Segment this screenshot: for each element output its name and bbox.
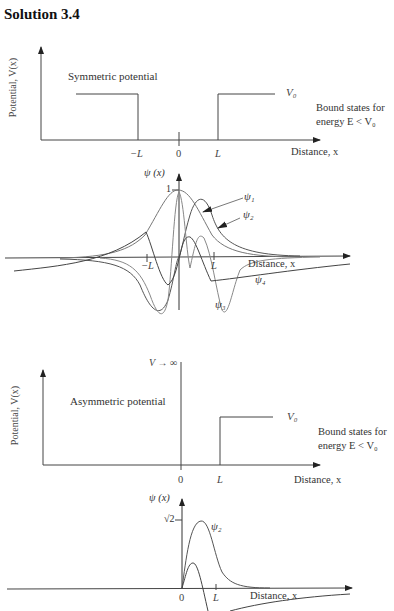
wall-label: V → ∞ (149, 357, 177, 368)
psi1-label: ψ₁ (244, 190, 255, 202)
asym-psi-ylabel: ψ (x) (149, 492, 170, 503)
asymmetric-caption: Asymmetric potential (70, 395, 166, 407)
psi-ylabel: ψ (x) (144, 167, 165, 178)
psi-tick-neg-L: −L (141, 260, 154, 271)
asym-psi-tick-L: L (213, 592, 219, 603)
symmetric-v0-label: V₀ (286, 86, 297, 98)
tick-neg-L: −L (130, 148, 143, 159)
asymmetric-ylabel: Potential, V(x) (9, 366, 20, 466)
asym-psi-tick: √2 (164, 513, 175, 524)
psi4-label: ψ₄ (255, 273, 266, 285)
labels-layer: Potential, V(x) Symmetric potential V₀ B… (0, 0, 394, 611)
asym-psi2-label: ψ₂ (211, 520, 222, 532)
tick-zero: 0 (176, 148, 181, 159)
symmetric-xlabel: Distance, x (291, 146, 338, 157)
psi-tick-one: 1 (166, 183, 171, 194)
psi3-label: ψ₃ (215, 298, 226, 310)
asymmetric-xlabel: Distance, x (294, 474, 341, 485)
psi2-label: ψ₂ (243, 208, 254, 220)
asymmetric-bound-note: Bound states for energy E < V₀ (318, 425, 387, 453)
bound-line-2: energy E < V₀ (316, 115, 385, 129)
psi-tick-L: L (211, 260, 217, 271)
symmetric-bound-note: Bound states for energy E < V₀ (316, 101, 385, 129)
asym-tick-zero: 0 (178, 474, 183, 485)
asymmetric-v0-label: V₀ (287, 410, 298, 422)
symmetric-caption: Symmetric potential (68, 70, 158, 82)
asym-psi-tick-zero: 0 (179, 592, 184, 603)
bound-line-1: Bound states for (316, 101, 385, 115)
symmetric-ylabel: Potential, V(x) (7, 38, 18, 138)
bound-line-1: Bound states for (318, 425, 387, 439)
asym-tick-L: L (217, 474, 223, 485)
psi-xlabel: Distance, x (248, 258, 295, 269)
asym-psi-xlabel: Distance, x (250, 590, 297, 601)
tick-L: L (215, 148, 221, 159)
bound-line-2: energy E < V₀ (318, 439, 387, 453)
